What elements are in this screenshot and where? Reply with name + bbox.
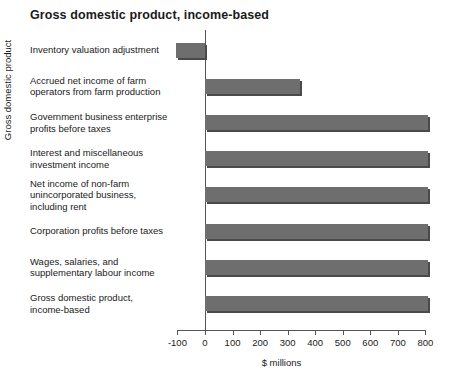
category-label: Inventory valuation adjustment [30, 44, 190, 56]
category-label-line: Interest and miscellaneous [30, 147, 190, 159]
bar [205, 224, 428, 239]
chart-title: Gross domestic product, income-based [30, 8, 269, 22]
category-label-line: Wages, salaries, and [30, 256, 190, 268]
bar [205, 115, 428, 130]
category-label-line: Government business enterprise [30, 111, 190, 123]
x-axis-line [177, 330, 425, 331]
category-label-line: Corporation profits before taxes [30, 225, 190, 237]
plot-area: Inventory valuation adjustmentAccrued ne… [0, 30, 455, 330]
category-label-line: operators from farm production [30, 86, 190, 98]
x-tick [398, 330, 399, 335]
x-tick-label: 800 [405, 337, 445, 348]
category-label-line: Gross domestic product, [30, 292, 190, 304]
x-tick [177, 330, 178, 335]
x-axis-title: $ millions [0, 357, 455, 368]
x-tick [425, 330, 426, 335]
x-tick [343, 330, 344, 335]
category-label: Wages, salaries, andsupplementary labour… [30, 256, 190, 279]
category-label-line: unincorporated business, [30, 189, 190, 201]
bar [205, 296, 428, 311]
x-tick [315, 330, 316, 335]
bar [205, 187, 428, 202]
category-label-line: Accrued net income of farm [30, 75, 190, 87]
zero-axis-line [205, 30, 206, 331]
bar-chart: Gross domestic product, income-based Gro… [0, 0, 455, 376]
x-tick [370, 330, 371, 335]
bar [205, 79, 300, 94]
category-label: Accrued net income of farmoperators from… [30, 75, 190, 98]
x-tick [288, 330, 289, 335]
bar [205, 260, 428, 275]
x-axis-title-text: $ millions [262, 357, 302, 368]
category-label: Gross domestic product,income-based [30, 292, 190, 315]
category-label-line: including rent [30, 201, 190, 213]
category-label: Net income of non-farmunincorporated bus… [30, 178, 190, 213]
category-label-line: Inventory valuation adjustment [30, 44, 190, 56]
category-label-line: investment income [30, 159, 190, 171]
x-tick [233, 330, 234, 335]
category-label-line: supplementary labour income [30, 267, 190, 279]
category-label: Interest and miscellaneousinvestment inc… [30, 147, 190, 170]
category-label: Corporation profits before taxes [30, 225, 190, 237]
category-label-line: profits before taxes [30, 123, 190, 135]
bar [176, 43, 205, 58]
bar [205, 151, 428, 166]
x-tick [260, 330, 261, 335]
category-label-line: Net income of non-farm [30, 178, 190, 190]
x-tick [205, 330, 206, 335]
category-label: Government business enterpriseprofits be… [30, 111, 190, 134]
category-label-line: income-based [30, 304, 190, 316]
